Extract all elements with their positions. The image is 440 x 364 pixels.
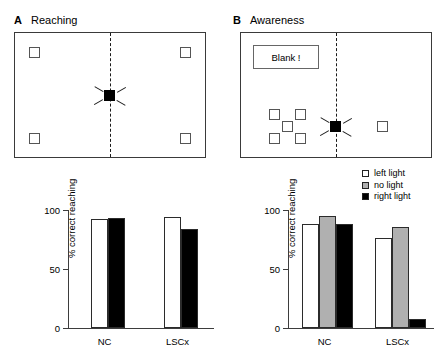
distractor-square-5 — [295, 133, 306, 144]
bar-nc-right-light — [108, 218, 125, 328]
y-tick: 50 — [283, 269, 288, 270]
legend-swatch-left-light — [362, 170, 369, 177]
distractor-square-2 — [295, 109, 306, 120]
reaching-x-axis — [68, 328, 214, 329]
awareness-y-axis — [288, 210, 289, 328]
panel-b-title: BAwareness — [233, 14, 304, 26]
midline-dashed — [336, 33, 337, 157]
y-tick-label: 0 — [55, 323, 60, 334]
y-tick-label: 100 — [44, 205, 60, 216]
fixation-point — [104, 90, 115, 101]
bar-nc-no-light — [319, 216, 336, 328]
awareness-bar-chart: % correct reaching 050100 NCLSCx — [238, 196, 438, 364]
distractor-square-4 — [269, 133, 280, 144]
distractor-square-1 — [269, 109, 280, 120]
reaching-scene — [14, 32, 206, 158]
target-square-top-left — [29, 47, 40, 58]
legend-label-left-light: left light — [374, 168, 405, 180]
bar-lscx-left-light — [164, 217, 181, 328]
y-tick: 0 — [63, 328, 68, 329]
fixation-point — [330, 121, 341, 132]
awareness-scene: Blank ! — [240, 32, 432, 158]
blank-callout-box: Blank ! — [253, 45, 319, 69]
x-group-label: NC — [68, 336, 141, 347]
blank-callout-label: Blank ! — [271, 52, 300, 63]
x-group-label: LSCx — [141, 336, 214, 347]
y-tick: 50 — [63, 269, 68, 270]
target-square-bottom-left — [29, 133, 40, 144]
figure-canvas: AReaching BAwareness Blank ! — [0, 0, 440, 364]
panel-b-letter: B — [233, 14, 241, 26]
panel-b-title-text: Awareness — [250, 14, 304, 26]
y-tick-label: 0 — [275, 323, 280, 334]
y-tick: 100 — [63, 210, 68, 211]
awareness-x-axis — [288, 328, 434, 329]
panel-a-title-text: Reaching — [31, 14, 77, 26]
bar-lscx-left-light — [375, 238, 392, 328]
bar-lscx-right-light — [181, 229, 198, 328]
right-field-square — [377, 121, 388, 132]
panel-a-letter: A — [14, 14, 22, 26]
legend-item-no-light: no light — [362, 180, 411, 192]
awareness-plot-area: % correct reaching 050100 NCLSCx — [288, 210, 434, 328]
legend-label-no-light: no light — [374, 180, 403, 192]
x-group-label: LSCx — [361, 336, 434, 347]
y-tick: 100 — [283, 210, 288, 211]
y-tick-label: 100 — [264, 205, 280, 216]
bar-nc-left-light — [302, 224, 319, 328]
y-tick: 0 — [283, 328, 288, 329]
legend-item-left-light: left light — [362, 168, 411, 180]
reaching-bar-chart: % correct reaching 050100 NCLSCx — [18, 196, 218, 364]
x-group-label: NC — [288, 336, 361, 347]
reaching-y-axis — [68, 210, 69, 328]
y-tick-label: 50 — [49, 264, 60, 275]
target-square-bottom-right — [180, 133, 191, 144]
panel-a-title: AReaching — [14, 14, 77, 26]
reaching-plot-area: % correct reaching 050100 NCLSCx — [68, 210, 214, 328]
bar-lscx-no-light — [392, 227, 409, 328]
bar-lscx-right-light — [409, 319, 426, 328]
legend-swatch-no-light — [362, 182, 369, 189]
bar-nc-right-light — [336, 224, 353, 328]
y-tick-label: 50 — [269, 264, 280, 275]
bar-nc-left-light — [91, 219, 108, 328]
distractor-square-3 — [282, 121, 293, 132]
target-square-top-right — [180, 47, 191, 58]
